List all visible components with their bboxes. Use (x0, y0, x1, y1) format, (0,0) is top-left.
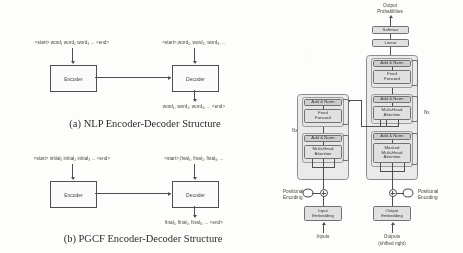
panel-a-connector-line (95, 77, 171, 78)
output-probabilities-line (390, 17, 391, 26)
encoder-nx-label: Nx (292, 128, 298, 133)
decoder-add-norm-3-box: Add & Norm (373, 133, 411, 140)
output-probabilities-label-line1: Output (383, 3, 397, 9)
encoder-feed-forward-label-line2: Forward (315, 115, 331, 120)
decoder-nx-label: Nx (424, 110, 430, 115)
positional-encoding-left-label-line2: Encoding (283, 195, 303, 201)
decoder-residual-3 (411, 133, 418, 165)
decoder-masked-input-line-2 (392, 163, 393, 171)
panel-a-decoder-label: Decoder (186, 76, 205, 82)
panel-a-decoder-input-line (194, 48, 195, 62)
encoder-output-bus-top (349, 100, 361, 101)
encoder-add-norm-2-label: Add & Norm (311, 136, 334, 141)
encoder-attn-input-line-1 (312, 159, 313, 167)
panel-b-encoder-input-label: <start> initial₁ initial₂ initial₃ ... <… (34, 156, 110, 162)
encoder-attn-input-line-3 (334, 159, 335, 167)
panel-b-decoder-output-arrow (193, 215, 197, 218)
panel-a-decoder-input-label: <start>,word₁, word₂, word₃, ... (162, 40, 226, 46)
panel-b-decoder-input-arrow (193, 177, 197, 180)
panel-a-encoder-input-line (72, 48, 73, 62)
panel-b-encoder-box: Encoder (50, 181, 97, 208)
output-probabilities-label-line2: Probabilities (377, 9, 403, 15)
positional-encoding-left-label-line1: Positional (283, 189, 303, 195)
encoder-embedding-up-line (323, 196, 324, 206)
decoder-feed-forward-label-line2: Forward (384, 76, 400, 81)
output-probabilities-arrow (389, 15, 393, 18)
encoder-residual-1 (342, 99, 349, 125)
encoder-output-bus-into-decoder (361, 126, 380, 127)
panel-b-connector-line (95, 193, 171, 194)
decoder-cross-attention-label-line2: Attention (384, 112, 401, 117)
decoder-residual-1 (411, 60, 418, 86)
inputs-arrow (322, 222, 326, 225)
output-embedding-label-line2: Embedding (381, 213, 403, 218)
decoder-cross-input-bus (380, 126, 399, 127)
panel-b-decoder-output-label: final₁, final₂, final₃, ... <end> (165, 220, 223, 226)
decoder-masked-attention-box: MaskedMulti-HeadAttention (373, 143, 411, 163)
panel-b-caption: (b) PGCF Encoder-Decoder Structure (64, 233, 223, 244)
panel-a-caption: (a) NLP Encoder-Decoder Structure (69, 118, 220, 129)
positional-encoding-right-label-line2: Encoding (418, 195, 438, 201)
linear-box: Linear (372, 39, 409, 47)
decoder-masked-input-line-1 (380, 163, 381, 171)
panel-a-decoder-output-arrow (193, 99, 197, 102)
linear-label: Linear (385, 41, 397, 46)
softmax-box: Softmax (372, 26, 409, 34)
panel-a-decoder-input-arrow (193, 61, 197, 64)
panel-b-encoder-label: Encoder (64, 192, 83, 198)
panel-b-decoder-box: Decoder (172, 181, 219, 208)
decoder-add-norm-1-label: Add & Norm (380, 61, 403, 66)
decoder-add-norm-2-label: Add & Norm (380, 97, 403, 102)
decoder-positional-link (396, 193, 404, 194)
output-embedding-box: OutputEmbedding (373, 206, 411, 221)
decoder-feed-forward-box: FeedForward (373, 70, 411, 84)
panel-b-decoder-input-line (194, 164, 195, 178)
encoder-residual-2 (342, 135, 349, 161)
panel-a-connector-arrow (168, 76, 171, 80)
panel-a-encoder-label: Encoder (64, 76, 83, 82)
encoder-self-attention-box: Multi-HeadAttention (304, 145, 342, 159)
decoder-add-norm-3-label: Add & Norm (380, 134, 403, 139)
outputs-arrow (391, 222, 395, 225)
decoder-embedding-up-line (392, 196, 393, 206)
inputs-line (323, 224, 324, 233)
outputs-label-line1: Outputs (384, 234, 400, 240)
decoder-add-norm-1-box: Add & Norm (373, 60, 411, 67)
panel-a-decoder-box: Decoder (172, 65, 219, 92)
panel-b-decoder-label: Decoder (186, 192, 205, 198)
figure-canvas: <start> word₁ word₂ word₃ ... <end> Enco… (0, 0, 463, 253)
outputs-line (392, 224, 393, 233)
encoder-output-bus-drop (361, 100, 362, 126)
panel-b-connector-arrow (168, 192, 171, 196)
outputs-label-line2: (shifted right) (378, 241, 406, 247)
softmax-label: Softmax (383, 28, 399, 33)
decoder-positional-wave-icon (403, 189, 414, 198)
panel-b-encoder-input-arrow (71, 177, 75, 180)
decoder-masked-attention-label-line3: Attention (384, 154, 401, 159)
encoder-feed-forward-box: FeedForward (304, 109, 342, 123)
panel-a-decoder-output-label: word₁, word₂, word₃, ... <end> (163, 104, 225, 110)
positional-encoding-right-label-line1: Positional (418, 189, 438, 195)
linear-to-decoder-line (390, 47, 391, 55)
encoder-add-norm-2-box: Add & Norm (304, 135, 342, 142)
inputs-label: Inputs (317, 234, 330, 240)
decoder-masked-input-line-3 (404, 163, 405, 171)
panel-a-encoder-input-label: <start> word₁ word₂ word₃ ... <end> (35, 40, 109, 46)
decoder-add-norm-2-box: Add & Norm (373, 96, 411, 103)
encoder-positional-link (312, 193, 320, 194)
decoder-residual-2 (411, 96, 418, 122)
encoder-add-norm-1-label: Add & Norm (311, 100, 334, 105)
panel-b-decoder-input-label: <start>,final₁, final₂, final₃, ... (164, 156, 223, 162)
panel-b-encoder-input-line (72, 164, 73, 178)
panel-a-encoder-box: Encoder (50, 65, 97, 92)
encoder-attn-input-line-2 (323, 159, 324, 167)
encoder-self-attention-label-line2: Attention (315, 151, 332, 156)
input-embedding-label-line2: Embedding (312, 213, 334, 218)
encoder-add-norm-1-box: Add & Norm (304, 99, 342, 106)
decoder-cross-attention-box: Multi-HeadAttention (373, 106, 411, 120)
input-embedding-box: InputEmbedding (304, 206, 342, 221)
panel-a-encoder-input-arrow (71, 61, 75, 64)
